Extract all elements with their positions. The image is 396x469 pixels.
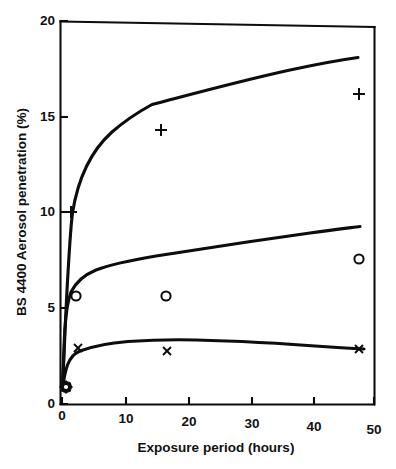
y-tick-labels: 20 15 10 5 0 [40,13,56,411]
y-tick-label-20: 20 [40,13,55,28]
x-tick-label-0: 0 [58,408,66,423]
curve-circle-series [63,227,361,388]
curve-cross-series [63,340,365,389]
x-tick-label-40: 40 [306,419,321,434]
chart-canvas: 20 15 10 5 0 0 10 20 30 40 50 BS 4400 Ae… [0,0,396,469]
y-tick-label-0: 0 [47,396,55,411]
markers-circle-series [71,254,363,300]
data-point-circle-1 [71,291,80,300]
x-tick-labels: 0 10 20 30 40 50 [58,408,381,437]
y-axis-title: BS 4400 Aerosol penetration (%) [14,108,29,316]
data-point-circle-3 [354,254,363,263]
markers-plus-series [65,88,365,218]
y-tick-label-10: 10 [40,204,55,219]
x-tick-label-30: 30 [244,416,259,431]
x-tick-label-10: 10 [118,411,133,426]
top-rule [61,22,375,28]
chart-figure: 20 15 10 5 0 0 10 20 30 40 50 BS 4400 Ae… [0,0,396,469]
x-tick-label-50: 50 [366,422,381,437]
data-point-plus-3 [353,88,365,100]
data-point-cross-2 [163,347,171,355]
x-tick-marks [62,397,374,405]
x-axis-title: Exposure period (hours) [138,440,295,455]
curve-plus-series [63,58,359,388]
data-point-plus-1 [65,206,77,218]
x-tick-label-20: 20 [181,414,196,429]
data-point-plus-2 [155,124,167,136]
data-point-circle-2 [161,291,170,300]
y-tick-label-5: 5 [47,300,55,315]
y-tick-label-15: 15 [40,109,56,124]
scan-artifact-footer [0,459,396,469]
